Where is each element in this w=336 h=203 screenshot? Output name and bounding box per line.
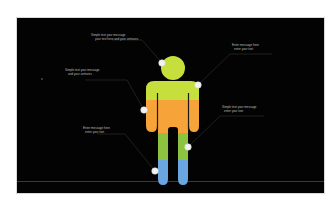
callout-label-arm: Simple text your message and your ventur… <box>65 69 100 76</box>
human-figure-diagram <box>17 18 324 193</box>
segment-upper-legs <box>137 133 207 160</box>
callout-marker-knee <box>185 144 192 151</box>
segment-torso <box>137 100 207 133</box>
callout-label-shoulder: Enter message here enter your text <box>232 44 259 51</box>
callout-marker-shoulder <box>195 82 202 89</box>
callout-label-foot: Enter message here enter your text <box>83 127 110 134</box>
marker-dot <box>41 78 43 80</box>
callout-marker-arm <box>141 107 148 114</box>
callout-label-head: Simple text your message your text here … <box>91 34 138 41</box>
segment-lower-legs <box>137 160 207 190</box>
callout-marker-foot <box>152 168 159 175</box>
callout-marker-head <box>159 60 166 67</box>
infographic-panel: Simple text your message your text here … <box>17 18 324 193</box>
segment-head-chest <box>137 48 207 100</box>
callout-label-knee: Simple text your message enter your text <box>222 106 257 113</box>
